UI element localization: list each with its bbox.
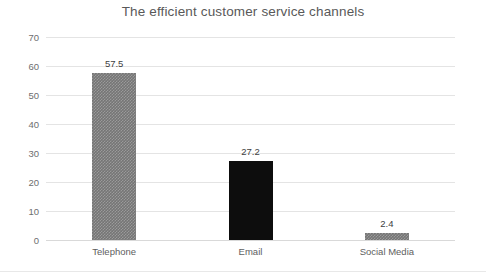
chart-container: The efficient customer service channels … [0,0,486,272]
x-axis-tick-label: Social Media [360,246,414,257]
y-axis-tick-label: 50 [28,90,39,101]
y-axis: 010203040506070 [0,0,46,272]
bar-value-label: 27.2 [241,146,260,157]
gridline [46,37,455,38]
x-axis-tick-label: Telephone [92,246,136,257]
bar-social-media[interactable] [365,233,409,240]
y-axis-tick-label: 20 [28,177,39,188]
chart-title: The efficient customer service channels [0,4,486,19]
bar-value-label: 57.5 [105,58,124,69]
plot-area: 57.527.22.4 [46,37,455,240]
x-axis-tick-label: Email [239,246,263,257]
y-axis-tick-label: 0 [34,235,39,246]
y-axis-tick-label: 10 [28,206,39,217]
y-axis-tick-label: 30 [28,148,39,159]
y-axis-tick-label: 70 [28,32,39,43]
y-axis-tick-label: 60 [28,61,39,72]
bar-telephone[interactable] [92,73,136,240]
y-axis-tick-label: 40 [28,119,39,130]
bar-email[interactable] [229,161,273,240]
x-axis-line [46,240,455,241]
bar-value-label: 2.4 [380,218,393,229]
